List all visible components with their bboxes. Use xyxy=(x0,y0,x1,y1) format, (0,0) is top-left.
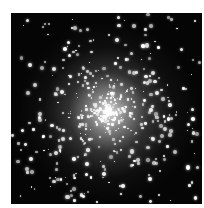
star xyxy=(20,149,22,151)
star xyxy=(99,109,101,111)
star xyxy=(73,26,77,30)
star xyxy=(194,196,197,199)
star xyxy=(148,177,152,181)
star xyxy=(78,45,80,47)
star xyxy=(118,128,119,129)
star xyxy=(111,123,113,125)
star xyxy=(119,185,121,187)
star xyxy=(130,116,132,118)
star xyxy=(146,81,150,85)
star xyxy=(91,97,92,98)
star xyxy=(107,120,109,122)
star xyxy=(188,184,190,186)
star xyxy=(120,119,123,122)
star xyxy=(142,103,145,106)
star xyxy=(48,23,50,25)
star xyxy=(112,138,114,140)
star xyxy=(32,128,35,131)
star xyxy=(68,83,70,85)
star xyxy=(38,118,42,122)
star xyxy=(30,170,33,173)
star xyxy=(65,195,69,199)
star xyxy=(144,75,147,78)
star xyxy=(87,87,90,90)
star xyxy=(117,79,119,81)
star xyxy=(62,112,64,114)
star xyxy=(57,102,58,103)
star xyxy=(152,161,156,165)
star xyxy=(128,70,132,74)
star xyxy=(86,70,89,73)
star xyxy=(130,113,131,114)
star xyxy=(140,123,143,126)
star xyxy=(99,101,101,103)
star xyxy=(135,132,137,134)
star xyxy=(119,111,122,114)
star xyxy=(77,156,79,158)
star xyxy=(96,86,97,87)
star xyxy=(152,120,155,123)
star xyxy=(63,47,67,51)
star xyxy=(159,170,160,171)
star xyxy=(67,41,70,44)
star xyxy=(127,98,130,101)
star xyxy=(81,123,84,126)
star xyxy=(75,50,77,52)
star xyxy=(99,136,101,138)
star xyxy=(168,100,170,102)
star xyxy=(135,141,137,143)
star xyxy=(163,127,167,131)
star xyxy=(128,155,131,158)
star xyxy=(163,115,165,117)
star xyxy=(24,143,27,146)
star xyxy=(158,194,160,196)
star xyxy=(93,86,94,87)
star xyxy=(99,96,102,99)
star xyxy=(168,103,172,107)
star xyxy=(187,130,188,131)
star xyxy=(151,105,154,108)
star xyxy=(108,182,109,183)
star xyxy=(56,87,59,90)
star xyxy=(28,63,32,67)
star xyxy=(104,168,106,170)
star xyxy=(153,80,156,83)
star xyxy=(79,29,82,32)
star xyxy=(191,117,195,121)
star xyxy=(89,72,92,75)
star xyxy=(151,71,155,75)
star xyxy=(82,195,85,198)
star xyxy=(109,117,110,118)
star xyxy=(113,150,115,152)
star xyxy=(102,67,106,71)
star xyxy=(81,110,82,111)
star xyxy=(124,20,125,21)
star xyxy=(115,38,119,42)
star xyxy=(146,146,150,150)
star xyxy=(144,122,146,124)
star xyxy=(167,117,170,120)
star xyxy=(127,90,128,91)
star xyxy=(100,118,103,121)
star xyxy=(85,128,87,130)
star xyxy=(56,162,58,164)
star xyxy=(191,140,194,143)
star xyxy=(94,112,96,114)
star xyxy=(97,109,98,110)
star xyxy=(143,99,146,102)
star xyxy=(123,119,124,120)
star xyxy=(187,123,190,126)
star xyxy=(88,94,89,95)
star xyxy=(104,120,106,122)
star xyxy=(58,139,60,141)
star xyxy=(168,133,171,136)
star xyxy=(35,151,37,153)
star xyxy=(148,174,150,176)
star xyxy=(115,111,117,113)
star xyxy=(137,162,140,165)
star xyxy=(85,162,89,166)
star xyxy=(157,120,159,122)
star xyxy=(170,18,173,21)
star xyxy=(130,149,134,153)
star xyxy=(132,24,135,27)
